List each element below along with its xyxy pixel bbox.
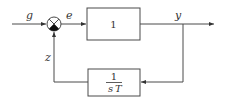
feedback-block-denominator-s: s — [108, 83, 113, 94]
forward-block: 1 — [87, 8, 140, 40]
summing-junction-icon — [47, 17, 61, 31]
feedback-block-numerator: 1 — [111, 71, 117, 82]
feedback-signal-label: z — [44, 51, 51, 64]
block-diagram: g e 1 y 1 s T z — [0, 0, 226, 102]
output-signal-label: y — [174, 9, 182, 22]
forward-block-label: 1 — [110, 19, 116, 30]
error-signal-label: e — [66, 9, 73, 22]
feedback-block: 1 s T — [88, 69, 140, 96]
input-signal-label: g — [26, 9, 33, 22]
feedback-signal-wire — [54, 32, 88, 82]
feedback-branch-wire — [141, 24, 183, 82]
